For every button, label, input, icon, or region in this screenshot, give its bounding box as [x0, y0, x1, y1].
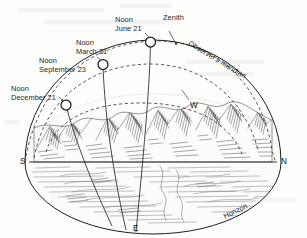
label-noon-march-21: Noon March 21	[76, 39, 107, 56]
compass-label-west: W	[190, 101, 198, 110]
compass-label-north: N	[281, 157, 287, 166]
sun-marker-december-21	[61, 100, 71, 110]
label-noon-june-line2: June 21	[115, 25, 142, 34]
label-noon-june-21: Noon June 21	[115, 16, 142, 33]
zenith-point	[175, 43, 177, 45]
mountain-terrain	[34, 102, 274, 162]
sun-marker-june-21	[146, 37, 156, 47]
sun-marker-march-september	[98, 60, 108, 70]
label-noon-september-23: Noon September 23	[39, 57, 86, 74]
label-noon-december-line2: December 21	[11, 94, 56, 103]
compass-label-south: S	[20, 157, 25, 166]
below-horizon-region	[25, 162, 281, 234]
label-noon-march-line2: March 21	[76, 48, 107, 57]
diagram-canvas	[0, 0, 307, 238]
label-zenith: Zenith	[163, 14, 184, 22]
label-noon-september-line2: September 23	[39, 66, 86, 75]
compass-label-east: E	[133, 224, 138, 233]
label-noon-december-21: Noon December 21	[11, 85, 56, 102]
celestial-sphere-diagram: Noon June 21 Noon March 21 Noon Septembe…	[0, 0, 307, 238]
